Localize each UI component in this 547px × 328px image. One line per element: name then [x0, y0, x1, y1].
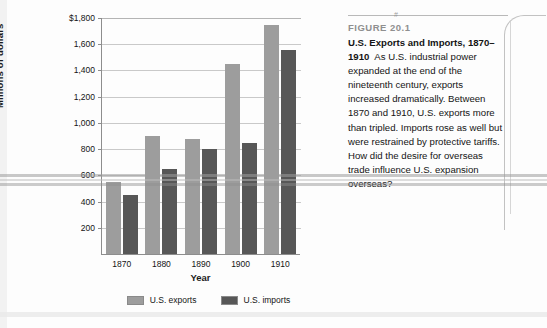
y-tick-200 — [98, 228, 102, 229]
caption-border-inner — [510, 22, 511, 214]
x-axis-label-1910: 1910 — [271, 259, 290, 269]
x-axis-title: Year — [101, 272, 300, 283]
figure-number: FIGURE 20.1 — [348, 22, 411, 33]
y-tick-1800 — [98, 18, 102, 19]
bar-group-1880: 1880 — [145, 18, 177, 254]
x-axis-label-1900: 1900 — [231, 259, 250, 269]
y-tick-400 — [98, 202, 102, 203]
bar-chart: Millions of dollars 2004006008001,0001,2… — [0, 0, 330, 328]
y-axis-title: Millions of dollars — [0, 23, 5, 108]
bar-1900-imports — [242, 143, 257, 254]
legend-label-exports: U.S. exports — [150, 295, 197, 305]
y-axis-label-800: 800 — [81, 144, 95, 154]
y-tick-600 — [98, 175, 102, 176]
bar-1890-exports — [185, 139, 200, 254]
y-axis-label-400: 400 — [81, 197, 95, 207]
y-tick-1600 — [98, 44, 102, 45]
y-tick-1400 — [98, 70, 102, 71]
x-axis-label-1870: 1870 — [112, 259, 131, 269]
legend-swatch-imports — [221, 296, 238, 305]
bar-group-1870: 1870 — [106, 18, 138, 254]
y-axis-label-1800: $1,800 — [69, 13, 95, 23]
plot-area: 2004006008001,0001,2001,4001,600$1,80018… — [101, 18, 300, 255]
y-axis-label-1600: 1,600 — [74, 39, 95, 49]
bar-1910-imports — [281, 50, 296, 254]
chart-legend: U.S. exports U.S. imports — [101, 295, 316, 305]
legend-item-exports: U.S. exports — [127, 295, 197, 305]
bar-1880-imports — [162, 169, 177, 254]
bar-1900-exports — [225, 64, 240, 254]
y-axis-label-1000: 1,000 — [74, 118, 95, 128]
bar-1880-exports — [145, 136, 160, 254]
y-axis-label-1400: 1,400 — [74, 65, 95, 75]
bar-group-1890: 1890 — [185, 18, 217, 254]
x-axis-label-1890: 1890 — [192, 259, 211, 269]
caption-top-rule — [348, 15, 508, 16]
bar-1910-exports — [264, 25, 279, 254]
legend-item-imports: U.S. imports — [221, 295, 291, 305]
y-axis-label-600: 600 — [81, 170, 95, 180]
caption-mark: # — [394, 11, 398, 18]
figure-root: Millions of dollars 2004006008001,0001,2… — [0, 0, 547, 328]
caption-description: As U.S. industrial power expanded at the… — [348, 51, 502, 189]
legend-swatch-exports — [127, 296, 144, 305]
y-tick-1200 — [98, 97, 102, 98]
y-axis-label-200: 200 — [81, 223, 95, 233]
y-tick-800 — [98, 149, 102, 150]
bar-group-1910: 1910 — [264, 18, 296, 254]
bar-1890-imports — [202, 149, 217, 254]
caption-text: U.S. Exports and Imports, 1870–1910As U.… — [348, 36, 506, 191]
bar-group-1900: 1900 — [225, 18, 257, 254]
y-axis-label-1200: 1,200 — [74, 92, 95, 102]
caption-panel: # FIGURE 20.1 U.S. Exports and Imports, … — [344, 0, 547, 328]
y-tick-1000 — [98, 123, 102, 124]
bar-1870-imports — [123, 195, 138, 254]
bar-1870-exports — [106, 182, 121, 254]
legend-label-imports: U.S. imports — [244, 295, 291, 305]
x-axis-label-1880: 1880 — [152, 259, 171, 269]
